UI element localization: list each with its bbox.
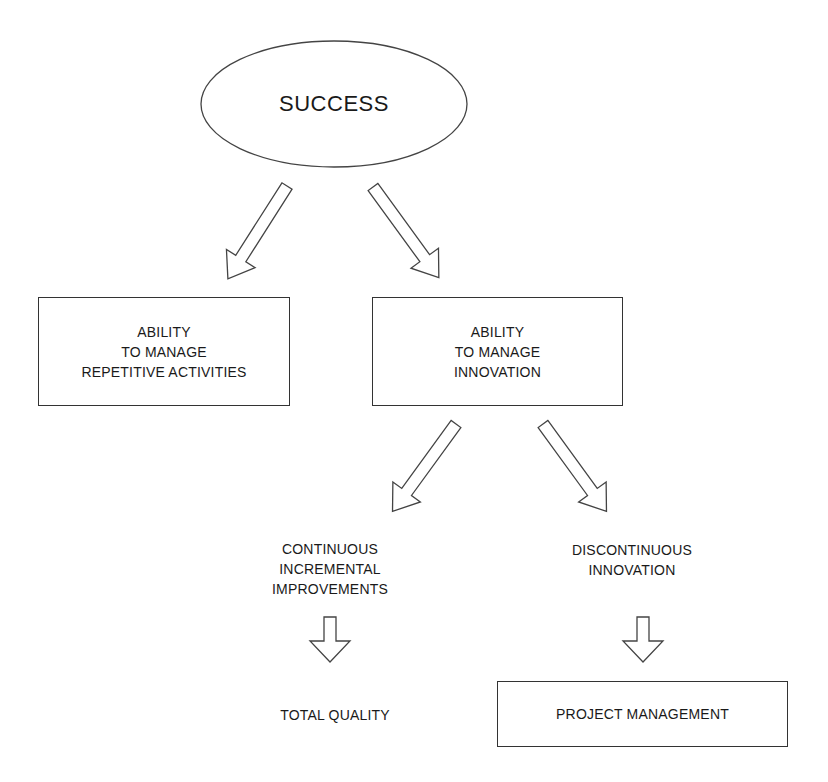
- total-quality-label: TOTAL QUALITY: [280, 705, 390, 725]
- arrow-innovation-to-continuous-icon: [379, 414, 470, 521]
- continuous-improvements-label: CONTINUOUS INCREMENTAL IMPROVEMENTS: [272, 539, 388, 599]
- project-management-box: PROJECT MANAGEMENT: [497, 681, 788, 747]
- arrow-continuous-to-total-quality-icon: [310, 617, 350, 662]
- success-label: SUCCESS: [279, 94, 389, 114]
- repetitive-activities-label: ABILITY TO MANAGE REPETITIVE ACTIVITIES: [81, 322, 246, 382]
- project-management-label: PROJECT MANAGEMENT: [556, 704, 729, 724]
- success-node: SUCCESS: [201, 41, 467, 167]
- arrow-innovation-to-discontinuous-icon: [529, 414, 620, 521]
- discontinuous-innovation-node: DISCONTINUOUS INNOVATION: [552, 536, 712, 584]
- manage-innovation-box: ABILITY TO MANAGE INNOVATION: [372, 297, 623, 406]
- arrow-discontinuous-to-project-management-icon: [623, 617, 663, 662]
- repetitive-activities-box: ABILITY TO MANAGE REPETITIVE ACTIVITIES: [38, 297, 290, 406]
- arrow-success-to-innovation-icon: [359, 177, 452, 288]
- manage-innovation-label: ABILITY TO MANAGE INNOVATION: [454, 322, 541, 382]
- discontinuous-innovation-label: DISCONTINUOUS INNOVATION: [572, 540, 692, 580]
- total-quality-node: TOTAL QUALITY: [260, 703, 410, 727]
- arrow-success-to-repetitive-icon: [214, 177, 302, 288]
- continuous-improvements-node: CONTINUOUS INCREMENTAL IMPROVEMENTS: [240, 536, 420, 602]
